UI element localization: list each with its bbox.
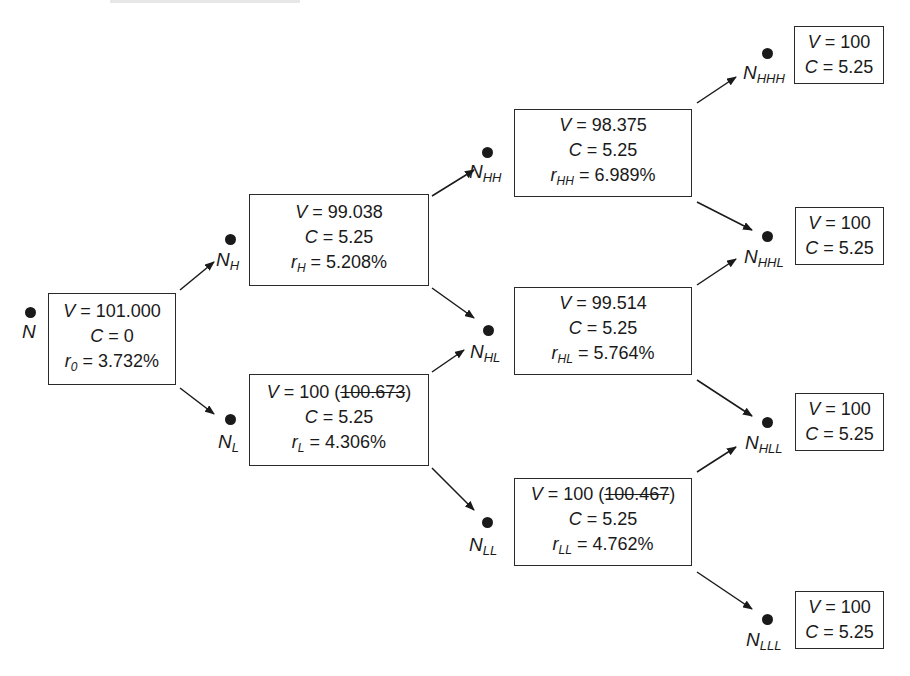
node-NH-label: NH (216, 250, 239, 272)
edge-NLL-NHLL (697, 447, 736, 472)
value-line: V = 99.514 (559, 291, 647, 316)
value-line: V = 100 (808, 30, 871, 55)
rate-line: rL = 4.306% (292, 430, 386, 461)
edge-N-NL (180, 388, 214, 414)
edge-NL-NHL (432, 350, 464, 372)
node-NH-box: V = 99.038 C = 5.25 rH = 5.208% (249, 194, 429, 286)
node-NHH-dot (482, 147, 493, 158)
value-line: V = 101.000 (63, 299, 161, 324)
coupon-line: C = 0 (90, 324, 134, 349)
node-NH-dot (225, 234, 236, 245)
edge-NLL-NLLL (697, 572, 752, 609)
node-NHHL-label: NHHL (744, 247, 784, 269)
node-N-label: N (22, 322, 36, 341)
coupon-line: C = 5.25 (569, 138, 638, 163)
edge-NHL-NHLL (697, 380, 752, 416)
value-line: V = 100 (100.673) (267, 380, 412, 405)
value-line: V = 100 (100.467) (531, 482, 676, 507)
edge-NHH-NHHH (697, 77, 736, 103)
rate-line: rHL = 5.764% (552, 341, 655, 372)
node-NLLL-dot (762, 614, 773, 625)
interest-rate-tree-diagram: N V = 101.000 C = 0 r0 = 3.732% NH V = 9… (0, 0, 910, 676)
edge-NL-NLL (432, 468, 474, 510)
value-line: V = 98.375 (559, 113, 647, 138)
node-NL-box: V = 100 (100.673) C = 5.25 rL = 4.306% (249, 374, 429, 466)
coupon-line: C = 5.25 (569, 507, 638, 532)
node-NLL-box: V = 100 (100.467) C = 5.25 rLL = 4.762% (514, 478, 692, 566)
rate-line: rHH = 6.989% (551, 163, 656, 194)
node-NHHH-box: V = 100 C = 5.25 (794, 26, 884, 84)
node-NHH-box: V = 98.375 C = 5.25 rHH = 6.989% (514, 109, 692, 197)
node-N-dot (25, 307, 36, 318)
coupon-line: C = 5.25 (305, 405, 374, 430)
coupon-line: C = 5.25 (805, 236, 874, 261)
edge-NH-NHH (432, 170, 474, 196)
rate-line: rH = 5.208% (291, 250, 387, 281)
node-NHHH-dot (762, 48, 773, 59)
edge-N-NH (180, 262, 214, 290)
value-line: V = 100 (808, 211, 871, 236)
node-NHH-label: NHH (469, 162, 502, 184)
node-NL-dot (225, 414, 236, 425)
node-NHL-dot (483, 325, 494, 336)
node-NHHL-dot (762, 231, 773, 242)
node-NHLL-dot (762, 417, 773, 428)
struck-value: 100.673 (340, 382, 405, 402)
edge-NH-NHL (432, 288, 474, 318)
node-NHL-label: NHL (470, 342, 500, 364)
node-NLLL-label: NLLL (746, 630, 781, 652)
edge-NHL-NHHL (697, 259, 736, 285)
coupon-line: C = 5.25 (569, 316, 638, 341)
node-NHHL-box: V = 100 C = 5.25 (795, 207, 884, 265)
rate-line: rLL = 4.762% (553, 532, 654, 563)
node-NLL-label: NLL (469, 535, 497, 557)
value-line: V = 100 (808, 397, 871, 422)
coupon-line: C = 5.25 (805, 422, 874, 447)
coupon-line: C = 5.25 (305, 225, 374, 250)
coupon-line: C = 5.25 (805, 55, 874, 80)
rate-line: r0 = 3.732% (65, 349, 159, 380)
value-line: V = 100 (808, 595, 871, 620)
node-NHLL-box: V = 100 C = 5.25 (795, 393, 884, 451)
node-N-box: V = 101.000 C = 0 r0 = 3.732% (48, 293, 176, 385)
node-NLLL-box: V = 100 C = 5.25 (795, 591, 884, 649)
node-NL-label: NL (218, 432, 239, 454)
edge-NHH-NHHL (697, 202, 752, 230)
node-NHLL-label: NHLL (745, 433, 783, 455)
node-NHHH-label: NHHH (743, 63, 785, 85)
node-NLL-dot (482, 517, 493, 528)
struck-value: 100.467 (604, 484, 669, 504)
value-line: V = 99.038 (295, 200, 383, 225)
coupon-line: C = 5.25 (805, 620, 874, 645)
node-NHL-box: V = 99.514 C = 5.25 rHL = 5.764% (514, 287, 692, 375)
